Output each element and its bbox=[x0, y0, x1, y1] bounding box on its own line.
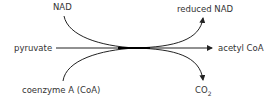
coenzyme-a-label: coenzyme A (CoA) bbox=[22, 86, 100, 95]
co2-subscript: 2 bbox=[208, 90, 212, 97]
acetyl-coa-label: acetyl CoA bbox=[218, 44, 264, 53]
co2-label: CO2 bbox=[195, 86, 211, 97]
coa-curve bbox=[63, 48, 135, 81]
nad-curve bbox=[64, 16, 135, 48]
reduced-nad-label: reduced NAD bbox=[177, 5, 233, 14]
co2-text: CO bbox=[195, 85, 208, 95]
nad-label: NAD bbox=[53, 3, 72, 12]
co2-curve bbox=[135, 48, 203, 80]
reduced-nad-curve bbox=[135, 18, 203, 48]
pyruvate-label: pyruvate bbox=[14, 44, 52, 53]
